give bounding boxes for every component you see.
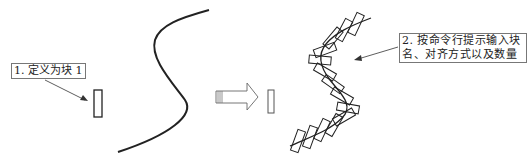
step-2-label-line-2: 名、对齐方式以及数量 <box>402 48 524 62</box>
step-2-label-line-1: 2. 按命令行提示输入块 <box>402 34 524 48</box>
leader-arrow-2 <box>354 47 398 61</box>
step-1-label: 1. 定义为块 1 <box>11 63 86 79</box>
block-result-icon <box>268 90 274 113</box>
diagram-canvas <box>0 0 531 163</box>
step-2-label: 2. 按命令行提示输入块 名、对齐方式以及数量 <box>399 33 527 63</box>
leader-arrow-1 <box>45 80 88 101</box>
transform-arrow-icon <box>216 83 258 110</box>
block-definition-icon <box>94 90 102 117</box>
measured-blocks-along-curve <box>290 12 371 152</box>
s-curve-path <box>118 10 209 152</box>
